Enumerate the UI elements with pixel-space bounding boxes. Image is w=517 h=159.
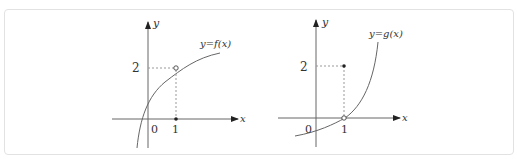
filled-point [342, 64, 346, 68]
y-tick-label: 2 [132, 61, 140, 75]
x-tick-label: 1 [172, 123, 179, 136]
x-axis-label: x [402, 112, 408, 123]
y-axis-label: y [321, 16, 329, 29]
curve-label: y=f(x) [199, 38, 231, 49]
diagram: y x 2 0 1 y=f(x) y x 2 0 1 y=g(x) [0, 0, 517, 159]
x-tick-label: 1 [341, 123, 348, 136]
origin-label: 0 [305, 123, 312, 136]
open-point [342, 116, 346, 120]
curve-g [295, 42, 378, 136]
open-point [174, 66, 178, 70]
x-axis-label: x [240, 113, 246, 124]
y-axis-label: y [152, 17, 160, 30]
graph-f: y x 2 0 1 y=f(x) [112, 17, 246, 148]
graph-g: y x 2 0 1 y=g(x) [278, 16, 408, 147]
y-tick-label: 2 [300, 60, 308, 74]
curve-label: y=g(x) [368, 28, 403, 39]
origin-label: 0 [151, 123, 158, 136]
filled-point [174, 117, 178, 121]
